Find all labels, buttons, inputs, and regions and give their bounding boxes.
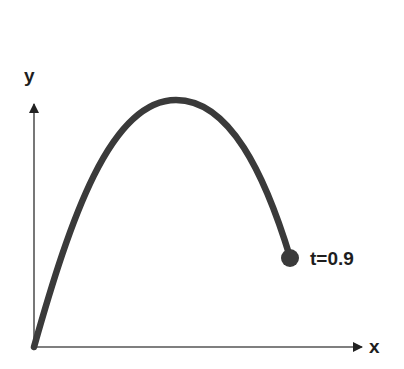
trajectory-curve [34, 100, 290, 347]
y-axis-label: y [24, 65, 35, 86]
time-label: t=0.9 [310, 248, 354, 269]
y-axis: y [24, 65, 35, 348]
trajectory-diagram: y x t=0.9 [0, 0, 404, 369]
current-position-dot [281, 249, 299, 267]
x-axis-label: x [369, 336, 380, 357]
x-axis: x [33, 336, 380, 357]
